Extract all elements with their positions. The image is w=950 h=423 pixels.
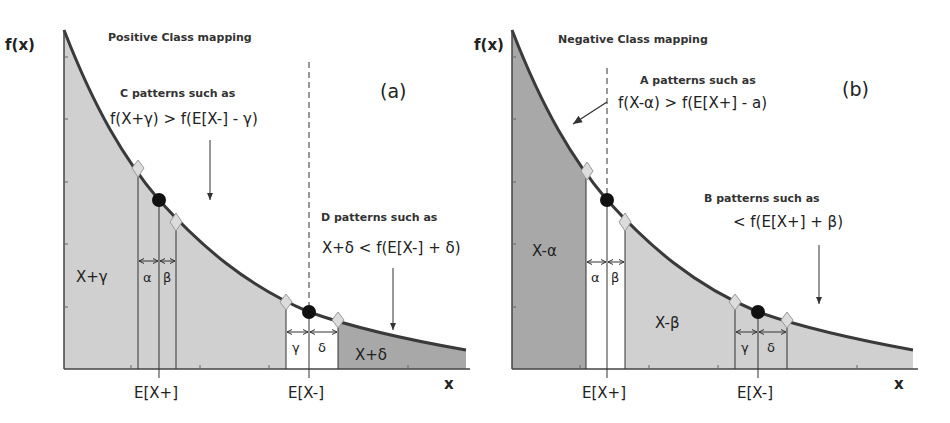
interval-label: β	[163, 270, 171, 285]
mean-marker	[302, 305, 316, 319]
region-label-right: X+δ	[355, 346, 387, 364]
interval-label: γ	[292, 340, 300, 355]
panel-tag: (b)	[842, 78, 869, 100]
x-tick-label: E[X+]	[582, 384, 626, 402]
y-axis-label: f(x)	[5, 36, 35, 54]
region-fill-dark	[512, 30, 586, 369]
x-tick-label: E[X-]	[737, 384, 773, 402]
class-mapping-diagram: f(x) Positive Class mapping (a) C patter…	[0, 0, 950, 423]
y-axis-label: f(x)	[474, 36, 504, 54]
region-label-right: X-β	[655, 314, 680, 332]
x-tick-label: E[X-]	[288, 384, 324, 402]
annotation-formula: < f(E[X+] + β)	[733, 213, 843, 231]
panel-title: Positive Class mapping	[108, 31, 252, 44]
region-label-left: X-α	[532, 242, 557, 260]
interval-label: β	[611, 270, 619, 285]
annotation-heading: D patterns such as	[321, 211, 438, 224]
panel-title: Negative Class mapping	[558, 33, 708, 46]
annotation-formula: X+δ < f(E[X-] + δ)	[322, 239, 461, 257]
mean-marker	[751, 305, 765, 319]
a-patterns-arrow	[573, 102, 607, 124]
annotation-formula: f(X-α) > f(E[X+] - a)	[618, 94, 767, 112]
interval-label: γ	[741, 340, 749, 355]
annotation-formula: f(X+γ) > f(E[X-] - γ)	[110, 110, 258, 128]
interval-label: δ	[767, 340, 775, 355]
interval-label: α	[591, 270, 600, 285]
x-tick-label: E[X+]	[134, 384, 178, 402]
interval-label: δ	[318, 340, 326, 355]
panel-b: f(x) Negative Class mapping (b) A patter…	[474, 30, 918, 402]
mean-marker	[600, 193, 614, 207]
interval-label: α	[143, 270, 152, 285]
annotation-heading: A patterns such as	[640, 74, 756, 87]
annotation-heading: C patterns such as	[120, 87, 236, 100]
mean-marker	[152, 193, 166, 207]
annotation-heading: B patterns such as	[704, 192, 820, 205]
panel-a: f(x) Positive Class mapping (a) C patter…	[5, 30, 470, 402]
region-label-left: X+γ	[76, 268, 108, 286]
x-axis-label: x	[444, 375, 454, 393]
panel-tag: (a)	[380, 80, 406, 102]
x-axis-label: x	[894, 375, 904, 393]
